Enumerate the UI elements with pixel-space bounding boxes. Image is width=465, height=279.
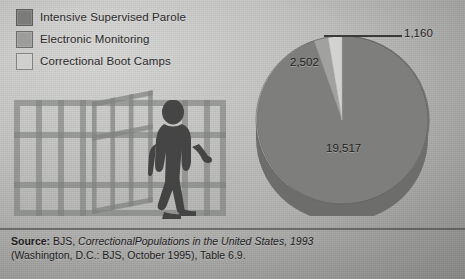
legend-item-electronic-monitoring: Electronic Monitoring [16,28,186,50]
pie-chart: 1,160 2,502 19,517 [252,24,432,216]
pie-value-boot-camps: 1,160 [404,27,433,39]
leader-line-boot-camps [324,35,402,37]
source-note: Source: BJS, CorrectionalPopulations in … [11,234,341,262]
legend-label-intensive-supervised-parole: Intensive Supervised Parole [40,11,186,23]
source-agency: BJS, [50,235,78,247]
legend: Intensive Supervised Parole Electronic M… [16,6,186,72]
gate-bar [92,101,97,214]
gate-bar [129,94,134,207]
legend-swatch-intensive-supervised-parole [16,9,33,26]
legend-label-correctional-boot-camps: Correctional Boot Camps [40,55,171,67]
legend-label-electronic-monitoring: Electronic Monitoring [40,33,149,45]
pie-value-electronic-monitoring: 2,502 [290,56,319,68]
source-divider [0,228,465,230]
prison-bar [80,100,86,216]
legend-item-intensive-supervised-parole: Intensive Supervised Parole [16,6,186,28]
gate-bar [110,98,115,211]
legend-swatch-electronic-monitoring [16,31,33,48]
prison-bar [58,100,64,216]
figure-panel: 1,160 2,502 19,517 Intensive Supervised … [0,0,465,279]
legend-item-correctional-boot-camps: Correctional Boot Camps [16,50,186,72]
source-publication-details: (Washington, D.C.: BJS, October 1995), T… [11,249,246,261]
prison-gate-escape-illustration [14,96,226,220]
pie-chart-svg [252,24,432,216]
pie-value-intensive-parole: 19,517 [326,142,361,154]
source-title-line1: CorrectionalPopulations in the United St… [78,235,287,247]
prison-bar [36,100,42,216]
person-silhouette-icon [140,100,214,220]
legend-swatch-correctional-boot-camps [16,53,33,70]
source-title-line2: 1993 [290,235,313,247]
source-prefix: Source: [11,235,50,247]
